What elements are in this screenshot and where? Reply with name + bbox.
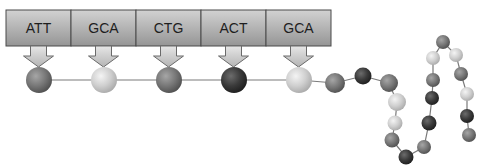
- amino-acid-chain: [26, 35, 476, 165]
- amino-acid-bead: [422, 116, 437, 131]
- amino-acid-bead: [156, 67, 182, 93]
- amino-acid-bead: [399, 150, 414, 165]
- down-arrow-icon: [154, 46, 184, 67]
- codon-label: GCA: [283, 20, 314, 36]
- amino-acid-bead: [460, 87, 474, 101]
- amino-acid-bead: [26, 67, 52, 93]
- down-arrow-icon: [284, 46, 314, 67]
- amino-acid-bead: [454, 67, 468, 81]
- codon-label: ATT: [26, 20, 52, 36]
- amino-acid-bead: [388, 116, 403, 131]
- codon-translation-diagram: ATTGCACTGACTGCA: [0, 0, 482, 165]
- amino-acid-bead: [417, 140, 431, 154]
- amino-acid-bead: [425, 91, 439, 105]
- amino-acid-bead: [286, 67, 312, 93]
- amino-acid-bead: [385, 133, 400, 148]
- amino-acid-bead: [449, 48, 463, 62]
- amino-acid-bead: [436, 35, 450, 49]
- codon-label: CTG: [154, 20, 184, 36]
- amino-acid-bead: [380, 74, 398, 92]
- down-arrow-icon: [89, 46, 119, 67]
- amino-acid-bead: [325, 73, 345, 93]
- amino-acid-bead: [426, 51, 440, 65]
- amino-acid-bead: [388, 93, 406, 111]
- codon-label: ACT: [220, 20, 248, 36]
- amino-acid-bead: [426, 73, 440, 87]
- translation-arrows: [24, 46, 314, 67]
- down-arrow-icon: [219, 46, 249, 67]
- amino-acid-bead: [355, 68, 372, 85]
- codon-row: ATTGCACTGACTGCA: [6, 10, 331, 46]
- amino-acid-bead: [91, 67, 117, 93]
- amino-acid-bead: [221, 67, 247, 93]
- down-arrow-icon: [24, 46, 54, 67]
- amino-acid-bead: [460, 109, 474, 123]
- codon-label: GCA: [88, 20, 119, 36]
- amino-acid-bead: [462, 128, 476, 142]
